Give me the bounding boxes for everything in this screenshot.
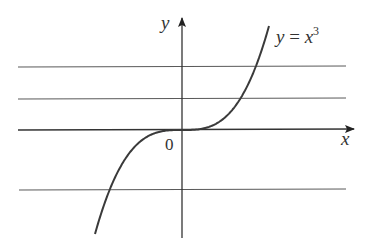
equation-exponent: 3 [313,24,319,38]
origin-label: 0 [165,136,174,153]
y-axis-label: y [161,13,169,32]
equation-base: x [305,26,313,47]
diagram-canvas: y x 0 y = x3 [0,0,373,244]
curve-equation-label: y = x3 [276,25,319,46]
equation-equals: = [284,26,304,47]
x-axis-label: x [341,129,349,148]
